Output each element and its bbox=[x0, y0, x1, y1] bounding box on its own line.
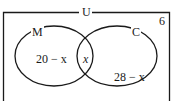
set-m-only-value: 20 − x bbox=[36, 53, 67, 65]
outside-value: 6 bbox=[159, 15, 165, 27]
universe-label: U bbox=[81, 6, 92, 18]
set-m-label: M bbox=[31, 26, 44, 38]
set-c-only-value: 28 − x bbox=[114, 71, 145, 83]
set-c-label: C bbox=[131, 26, 141, 38]
intersection-value: x bbox=[83, 53, 88, 65]
